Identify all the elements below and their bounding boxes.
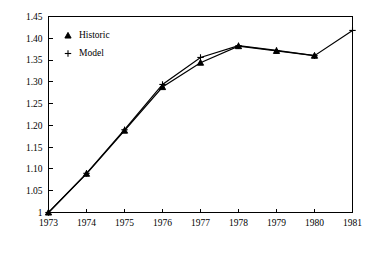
y-tick-label-1.10: 1.10	[26, 164, 43, 174]
y-tick-label-1.45: 1.45	[26, 12, 43, 22]
y-tick-label-1: 1	[38, 208, 43, 218]
legend-item-model: Model	[65, 48, 104, 58]
legend-label-historic: Historic	[79, 30, 110, 40]
y-tick-label-1.25: 1.25	[26, 99, 43, 109]
x-tick-label-1979: 1979	[267, 218, 286, 228]
x-tick-label-1973: 1973	[39, 218, 58, 228]
legend-item-historic: Historic	[65, 30, 110, 40]
line-chart: 11.051.101.151.201.251.301.351.401.45 19…	[0, 0, 368, 256]
x-tick-label-1975: 1975	[115, 218, 134, 228]
y-tick-label-1.40: 1.40	[26, 34, 43, 44]
x-tick-label-1974: 1974	[77, 218, 96, 228]
chart-legend: HistoricModel	[65, 30, 110, 58]
series-historic	[45, 43, 317, 215]
legend-label-model: Model	[79, 48, 104, 58]
x-tick-label-1980: 1980	[305, 218, 324, 228]
legend-triangle-icon	[65, 32, 71, 38]
y-axis-tick-marks	[49, 17, 53, 213]
y-axis-tick-labels: 11.051.101.151.201.251.301.351.401.45	[26, 12, 43, 218]
x-tick-label-1978: 1978	[229, 218, 248, 228]
plot-frame	[49, 17, 353, 213]
datapoint-model-1981	[349, 27, 355, 33]
legend-plus-icon	[65, 50, 71, 56]
y-tick-label-1.05: 1.05	[26, 186, 43, 196]
x-axis-tick-labels: 197319741975197619771978197919801981	[39, 218, 362, 228]
y-tick-label-1.30: 1.30	[26, 77, 43, 87]
axis-frame	[49, 17, 353, 213]
x-axis-tick-marks	[87, 209, 315, 213]
x-tick-label-1981: 1981	[343, 218, 362, 228]
y-tick-label-1.35: 1.35	[26, 55, 43, 65]
x-tick-label-1977: 1977	[191, 218, 210, 228]
y-tick-label-1.15: 1.15	[26, 143, 43, 153]
chart-figure: 11.051.101.151.201.251.301.351.401.45 19…	[0, 0, 368, 256]
x-tick-label-1976: 1976	[153, 218, 172, 228]
y-tick-label-1.20: 1.20	[26, 121, 43, 131]
